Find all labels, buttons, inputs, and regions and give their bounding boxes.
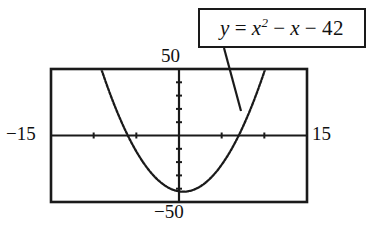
leader-line-segment	[224, 48, 241, 111]
callout-leader-line	[0, 0, 369, 227]
graph-figure: y = x2 − x − 42 −15 15 50 −50	[0, 0, 369, 227]
